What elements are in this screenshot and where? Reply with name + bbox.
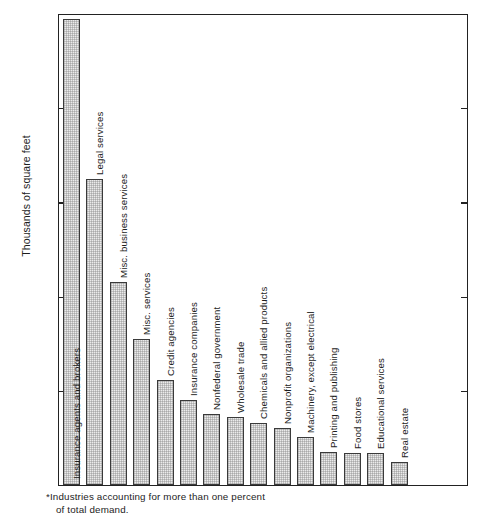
bar-label: Nonfederal government <box>211 200 222 410</box>
bar-label: Misc. services <box>141 125 152 335</box>
bar-group[interactable]: Wholesale trade <box>224 14 247 485</box>
bar-label: Nonprofit organizations <box>282 214 293 424</box>
bar[interactable] <box>110 282 127 485</box>
bar-group[interactable]: Misc. business services <box>107 14 130 485</box>
bar[interactable] <box>344 453 361 485</box>
bar-group[interactable]: Misc. services <box>130 14 153 485</box>
bar-group[interactable]: Nonfederal government <box>200 14 223 485</box>
footnote: *Industries accounting for more than one… <box>46 491 376 516</box>
bar-group[interactable]: Nonprofit organizations <box>271 14 294 485</box>
bar-label: Misc. business services <box>118 68 129 278</box>
bar[interactable] <box>274 428 291 485</box>
bar-group[interactable]: Chemicals and allied products <box>247 14 270 485</box>
bar[interactable] <box>391 462 408 485</box>
bar[interactable] <box>367 453 384 485</box>
bar-label: Legal services <box>94 0 105 175</box>
bar-label: Wholesale trade <box>235 203 246 413</box>
bar-label: Insurance companies <box>188 186 199 396</box>
bar-group[interactable]: Printing and publishing <box>317 14 340 485</box>
bar-group[interactable]: Insurance companies <box>177 14 200 485</box>
plot-area: Insurance agents and brokersLegal servic… <box>58 14 468 485</box>
bar-label: Food stores <box>352 239 363 449</box>
bar-group[interactable]: Real estate <box>388 14 411 485</box>
bar-label: Machinery, except electrical <box>305 223 316 433</box>
footnote-line-2: of total demand. <box>46 504 376 517</box>
bar-label: Credit agencies <box>165 166 176 376</box>
bar-chart: Thousands of square feet 100080060040020… <box>0 0 485 525</box>
bar[interactable] <box>250 423 267 485</box>
bar-group[interactable]: Educational services <box>364 14 387 485</box>
bar-group[interactable]: Credit agencies <box>154 14 177 485</box>
bar-label: Educational services <box>375 239 386 449</box>
bar[interactable] <box>227 417 244 485</box>
bar[interactable] <box>157 380 174 485</box>
bar[interactable] <box>86 179 103 485</box>
bar-group[interactable]: Machinery, except electrical <box>294 14 317 485</box>
bar[interactable] <box>180 400 197 485</box>
bar-label: Insurance agents and brokers <box>71 269 82 479</box>
y-axis-title: Thousands of square feet <box>20 116 32 276</box>
x-axis-baseline <box>58 485 468 486</box>
bar-label: Real estate <box>399 248 410 458</box>
bar-group[interactable]: Insurance agents and brokers <box>60 14 83 485</box>
bar[interactable] <box>203 414 220 485</box>
bar[interactable] <box>133 339 150 485</box>
bar[interactable] <box>320 452 337 485</box>
bar[interactable] <box>297 437 314 485</box>
bar-label: Printing and publishing <box>328 238 339 448</box>
bar-label: Chemicals and allied products <box>258 209 269 419</box>
bar-group[interactable]: Legal services <box>83 14 106 485</box>
footnote-line-1: *Industries accounting for more than one… <box>46 491 265 502</box>
bar-group[interactable]: Food stores <box>341 14 364 485</box>
